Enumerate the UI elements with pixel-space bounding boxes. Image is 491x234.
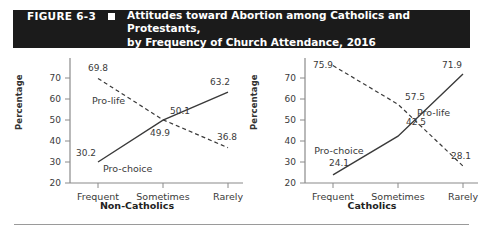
series-label-pro-choice-left: Pro-choice bbox=[103, 163, 153, 174]
value-label-right-prochoice-1: 42.5 bbox=[406, 117, 426, 127]
figure-number-label: FIGURE 6-3 bbox=[27, 9, 96, 23]
y-tick-left-5: 70 bbox=[50, 73, 62, 83]
chart-panel-non-catholics: Percentage 20 30 40 50 60 bbox=[12, 52, 244, 218]
value-label-left-prochoice-2: 63.2 bbox=[210, 77, 230, 87]
y-tick-right-2: 40 bbox=[285, 136, 297, 146]
value-label-right-prolife-0: 75.9 bbox=[313, 60, 333, 70]
line-chart-svg-right: 20 30 40 50 60 70 Frequent Sometimes Rar… bbox=[265, 52, 479, 202]
value-label-left-prolife-2: 36.8 bbox=[217, 132, 237, 142]
series-label-pro-life-left: Pro-life bbox=[92, 95, 125, 106]
square-bullet-icon bbox=[108, 13, 115, 20]
value-label-right-prochoice-2: 71.9 bbox=[442, 60, 462, 70]
y-tick-left-0: 20 bbox=[50, 178, 62, 188]
y-tick-left-2: 40 bbox=[50, 136, 62, 146]
x-axis-label-left: Non-Catholics bbox=[30, 200, 244, 211]
chart-panel-catholics: Percentage 20 30 40 50 60 70 bbox=[247, 52, 479, 218]
y-tick-left-4: 60 bbox=[50, 94, 62, 104]
plot-area-left: 20 30 40 50 60 70 Frequent Sometimes Rar… bbox=[30, 52, 244, 218]
figure-container: FIGURE 6-3 Attitudes toward Abortion amo… bbox=[0, 0, 491, 234]
figure-title: Attitudes toward Abortion among Catholic… bbox=[127, 9, 457, 50]
figure-title-line-2: by Frequency of Church Attendance, 2016 bbox=[127, 36, 457, 50]
value-label-left-prochoice-0: 30.2 bbox=[76, 148, 96, 158]
value-label-left-prolife-1: 50.1 bbox=[170, 106, 190, 116]
figure-title-line-1: Attitudes toward Abortion among Catholic… bbox=[127, 9, 457, 36]
y-tick-left-1: 30 bbox=[50, 157, 62, 167]
y-tick-right-3: 50 bbox=[285, 115, 297, 125]
value-label-right-prolife-2: 28.1 bbox=[451, 151, 471, 161]
value-label-left-prochoice-1: 49.9 bbox=[150, 128, 170, 138]
line-chart-svg-left: 20 30 40 50 60 70 Frequent Sometimes Rar… bbox=[30, 52, 244, 202]
y-tick-right-0: 20 bbox=[285, 178, 297, 188]
y-tick-right-5: 70 bbox=[285, 73, 297, 83]
value-label-right-prochoice-0: 24.1 bbox=[329, 158, 349, 168]
value-label-left-prolife-0: 69.8 bbox=[88, 63, 108, 73]
y-tick-right-4: 60 bbox=[285, 94, 297, 104]
plot-area-right: 20 30 40 50 60 70 Frequent Sometimes Rar… bbox=[265, 52, 479, 218]
series-label-pro-life-right: Pro-life bbox=[417, 107, 450, 118]
series-line-pro-choice-right bbox=[333, 74, 463, 175]
figure-bottom-rule bbox=[14, 224, 469, 225]
y-ticks-left: 20 30 40 50 60 70 bbox=[50, 73, 70, 188]
series-label-pro-choice-right: Pro-choice bbox=[314, 145, 364, 156]
y-tick-left-3: 50 bbox=[50, 115, 62, 125]
y-tick-right-1: 30 bbox=[285, 157, 297, 167]
value-label-right-prolife-1: 57.5 bbox=[405, 92, 425, 102]
figure-header-banner: FIGURE 6-3 Attitudes toward Abortion amo… bbox=[13, 10, 470, 48]
y-axis-label-right: Percentage bbox=[249, 74, 259, 130]
x-axis-label-right: Catholics bbox=[265, 200, 479, 211]
y-axis-label-left: Percentage bbox=[14, 74, 24, 130]
y-ticks-right: 20 30 40 50 60 70 bbox=[285, 73, 305, 188]
